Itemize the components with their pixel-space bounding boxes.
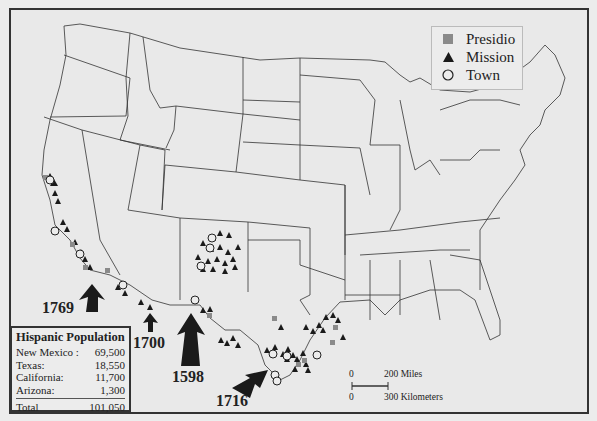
- scale-km-end: 300 Kilometers: [384, 392, 443, 402]
- year-label-1700: 1700: [133, 334, 165, 352]
- presidio-square-icon: [440, 34, 456, 44]
- hispanic-population-table: Hispanic Population New Mexico :69,500 T…: [10, 326, 131, 412]
- scale-miles-start: 0: [349, 369, 354, 379]
- legend-item-mission: Mission: [440, 49, 514, 65]
- scale-km-start: 0: [349, 392, 354, 402]
- population-table-title: Hispanic Population: [16, 330, 125, 345]
- scale-miles-end: 200 Miles: [384, 369, 422, 379]
- population-row: California:11,700: [16, 371, 125, 384]
- population-row: New Mexico :69,500: [16, 346, 125, 359]
- mission-triangle-icon: [440, 52, 456, 62]
- map-legend: Presidio Mission Town: [431, 26, 523, 90]
- year-label-1598: 1598: [172, 368, 204, 386]
- arrow-1700: [143, 313, 158, 332]
- arrow-1769: [79, 284, 105, 312]
- population-row: Texas:18,550: [16, 359, 125, 372]
- legend-item-town: Town: [440, 67, 500, 83]
- year-label-1769: 1769: [42, 299, 74, 317]
- town-circle-icon: [440, 69, 456, 81]
- legend-item-presidio: Presidio: [440, 31, 515, 47]
- arrow-1598: [177, 313, 205, 366]
- population-row: Arizona:1,300: [16, 384, 125, 397]
- population-total-row: Total101,050: [16, 398, 125, 414]
- year-label-1716: 1716: [216, 392, 248, 410]
